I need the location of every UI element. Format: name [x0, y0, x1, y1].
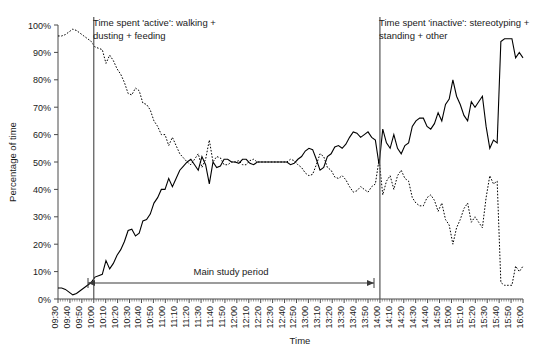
x-tick-label: 13:10	[312, 306, 322, 329]
x-tick-label: 12:40	[277, 306, 287, 329]
x-tick-label: 12:20	[253, 306, 263, 329]
x-tick-label: 11:30	[193, 306, 203, 328]
x-tick-label: 11:20	[181, 306, 191, 328]
inactive-annotation-line2: standing + other	[379, 30, 447, 41]
x-tick-label: 09:40	[62, 306, 72, 329]
x-tick-label: 09:50	[74, 306, 84, 329]
x-axis-ticks: 09:3009:4009:5010:0010:1010:2010:3010:40…	[50, 299, 525, 329]
x-tick-label: 10:30	[122, 306, 132, 329]
data-series-group	[58, 29, 523, 295]
x-tick-label: 12:00	[229, 306, 239, 329]
x-tick-label: 14:10	[384, 306, 394, 329]
y-tick-label: 90%	[33, 48, 51, 58]
x-tick-label: 13:50	[360, 306, 370, 329]
active-annotation-line1: Time spent 'active': walking +	[93, 17, 216, 28]
x-tick-label: 10:50	[145, 306, 155, 329]
main-study-period-label: Main study period	[194, 266, 269, 277]
event-marker-lines	[94, 17, 380, 299]
x-tick-label: 10:10	[98, 306, 108, 329]
series-inactive-line	[58, 39, 523, 295]
y-tick-label: 60%	[33, 130, 51, 140]
x-tick-label: 13:20	[324, 306, 334, 329]
y-tick-label: 100%	[28, 21, 51, 31]
x-tick-label: 15:30	[479, 306, 489, 329]
active-annotation-line2: dusting + feeding	[93, 30, 166, 41]
x-tick-label: 15:20	[467, 306, 477, 329]
y-tick-label: 70%	[33, 103, 51, 113]
x-axis-title: Time	[290, 335, 311, 346]
x-tick-label: 15:50	[503, 306, 513, 329]
chart-figure: 0%10%20%30%40%50%60%70%80%90%100% 09:300…	[0, 0, 553, 349]
x-tick-label: 14:50	[432, 306, 442, 329]
y-tick-label: 50%	[33, 158, 51, 168]
y-axis-ticks: 0%10%20%30%40%50%60%70%80%90%100%	[28, 21, 58, 305]
x-tick-label: 11:10	[169, 306, 179, 328]
x-tick-label: 11:00	[157, 306, 167, 328]
x-tick-label: 12:10	[241, 306, 251, 329]
chart-svg: 0%10%20%30%40%50%60%70%80%90%100% 09:300…	[0, 0, 553, 349]
inactive-annotation-line1: Time spent 'inactive': stereotyping +	[379, 17, 530, 28]
x-tick-label: 14:00	[372, 306, 382, 329]
x-tick-label: 14:40	[420, 306, 430, 329]
x-tick-label: 15:00	[443, 306, 453, 329]
x-tick-label: 15:40	[491, 306, 501, 329]
x-tick-label: 12:50	[288, 306, 298, 329]
x-tick-label: 14:20	[396, 306, 406, 329]
x-tick-label: 12:30	[265, 306, 275, 329]
x-tick-label: 13:00	[300, 306, 310, 329]
y-tick-label: 0%	[38, 295, 51, 305]
y-tick-label: 40%	[33, 185, 51, 195]
x-tick-label: 13:40	[348, 306, 358, 329]
x-tick-label: 14:30	[408, 306, 418, 329]
x-tick-label: 13:30	[336, 306, 346, 329]
y-tick-label: 30%	[33, 212, 51, 222]
x-tick-label: 10:00	[86, 306, 96, 329]
x-tick-label: 10:40	[133, 306, 143, 329]
x-tick-label: 10:20	[110, 306, 120, 329]
y-tick-label: 20%	[33, 240, 51, 250]
x-tick-label: 11:50	[217, 306, 227, 328]
x-tick-label: 15:10	[455, 306, 465, 329]
x-tick-label: 11:40	[205, 306, 215, 328]
y-axis-title: Percentage of time	[7, 122, 18, 202]
x-tick-label: 16:00	[515, 306, 525, 329]
main-study-period-arrow	[88, 278, 374, 288]
x-tick-label: 09:30	[50, 306, 60, 329]
series-active-line	[58, 29, 523, 285]
y-tick-label: 10%	[33, 267, 51, 277]
y-tick-label: 80%	[33, 75, 51, 85]
